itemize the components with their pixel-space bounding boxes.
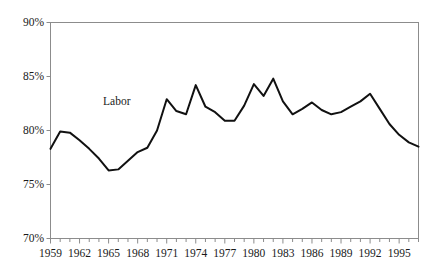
y-tick-label: 85% (8, 71, 44, 83)
y-tick-label: 70% (8, 233, 44, 245)
series-annotation-labor: Labor (103, 96, 130, 108)
chart-figure: 90%85%80%75%70% 195919621965196819711974… (0, 0, 438, 273)
y-tick-label: 75% (8, 179, 44, 191)
x-axis-ticks (51, 239, 419, 244)
y-axis-ticks (47, 23, 51, 239)
y-tick-label: 80% (8, 125, 44, 137)
x-tick-label: 1995 (379, 248, 419, 260)
line-chart-canvas (0, 0, 438, 273)
plot-frame (51, 23, 419, 239)
y-tick-label: 90% (8, 17, 44, 29)
